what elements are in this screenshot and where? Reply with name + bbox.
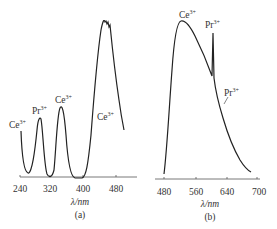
excitation-curve xyxy=(21,21,124,178)
tick-b-700: 700 xyxy=(252,187,267,197)
panel-b: 480 560 640 700 λ/nm (b) Ce3+ Pr3+ Pr3+ xyxy=(155,9,266,223)
tick-b-560: 560 xyxy=(189,187,204,197)
label-ce-a2: Ce3+ xyxy=(55,94,73,105)
caption-a: (a) xyxy=(75,210,86,221)
label-ce-a1: Ce3+ xyxy=(9,119,27,130)
label-ce-a3: Ce3+ xyxy=(97,111,115,122)
xlabel-b: λ/nm xyxy=(200,199,220,209)
panel-a: 240 320 400 480 λ/nm (a) Ce3+ Pr3+ Ce3+ … xyxy=(9,21,137,221)
label-pr-b1: Pr3+ xyxy=(205,19,220,30)
label-pr-b2: Pr3+ xyxy=(224,87,239,98)
figure: 240 320 400 480 λ/nm (a) Ce3+ Pr3+ Ce3+ … xyxy=(0,0,277,229)
caption-b: (b) xyxy=(204,212,215,223)
label-ce-b1: Ce3+ xyxy=(179,9,197,20)
tick-b-480: 480 xyxy=(157,187,172,197)
tick-b-640: 640 xyxy=(220,187,235,197)
tick-a-480: 480 xyxy=(109,184,124,194)
tick-a-240: 240 xyxy=(13,184,28,194)
label-pr-a1: Pr3+ xyxy=(32,105,47,116)
tick-a-320: 320 xyxy=(43,184,58,194)
emission-curve xyxy=(164,21,251,174)
tick-a-400: 400 xyxy=(76,184,91,194)
xlabel-a: λ/nm xyxy=(70,197,90,207)
